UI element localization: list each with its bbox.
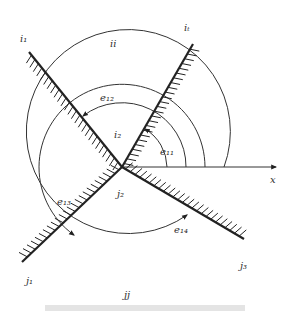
label-j1: j₁ xyxy=(24,275,33,286)
label-j3: j₃ xyxy=(238,260,247,271)
label-it: iₜ xyxy=(184,22,190,33)
label-x: x xyxy=(270,174,276,185)
arc-e12 xyxy=(83,103,186,167)
diagram-canvas: i₁ ii iₜ i₂ j₂ j₁ j₃ jj x e₁₁ e₁₂ e₁₃ e₁… xyxy=(0,0,292,311)
boundaries xyxy=(22,44,244,262)
label-i1: i₁ xyxy=(20,33,27,44)
figure-caption xyxy=(45,305,245,311)
labels: i₁ ii iₜ i₂ j₂ j₁ j₃ jj x e₁₁ e₁₂ e₁₃ e₁… xyxy=(20,22,276,300)
label-i2: i₂ xyxy=(114,129,121,140)
boundary-it xyxy=(122,44,193,167)
arc-e13 xyxy=(39,84,205,235)
label-e12: e₁₂ xyxy=(100,92,114,103)
label-e11: e₁₁ xyxy=(160,146,174,157)
label-e14: e₁₄ xyxy=(174,224,188,235)
label-j2: j₂ xyxy=(115,188,124,199)
label-ii: ii xyxy=(110,38,116,49)
label-jj: jj xyxy=(122,289,130,300)
label-e13: e₁₃ xyxy=(57,196,71,207)
boundary-i1 xyxy=(29,52,122,167)
